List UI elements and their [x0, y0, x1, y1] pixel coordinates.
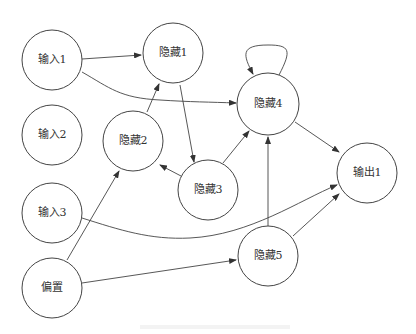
node-hidden3: 隐藏3 [178, 160, 238, 220]
node-label: 输入1 [38, 52, 67, 66]
figure-caption [140, 325, 290, 329]
node-label: 隐藏2 [119, 134, 148, 147]
node-hidden4: 隐藏4 [237, 73, 299, 135]
node-input3: 输入3 [22, 183, 82, 243]
node-label: 隐藏1 [159, 46, 188, 59]
node-label: 隐藏4 [254, 97, 283, 110]
network-diagram: 输入1 输入2 输入3 偏置 隐藏1 隐藏2 隐藏3 隐藏4 隐藏5 输出1 [0, 0, 416, 334]
node-hidden1: 隐藏1 [143, 23, 203, 83]
edge-bias-h5 [82, 260, 236, 283]
node-label: 输出1 [353, 165, 382, 179]
node-hidden5: 隐藏5 [238, 226, 298, 286]
edge-h1-h3 [180, 85, 194, 162]
edge-in1-h1 [82, 55, 141, 59]
edge-h3-h2 [160, 165, 181, 176]
node-input1: 输入1 [22, 30, 82, 90]
node-bias: 偏置 [22, 258, 82, 318]
node-label: 隐藏3 [194, 183, 223, 196]
node-input2: 输入2 [22, 105, 82, 165]
node-label: 隐藏5 [254, 249, 283, 262]
node-label: 输入2 [38, 127, 67, 141]
edge-h2-h1 [147, 84, 159, 112]
node-label: 偏置 [41, 280, 63, 294]
edge-h3-h4 [223, 131, 249, 163]
edge-h4-out1 [295, 122, 339, 152]
edge-h4-self [246, 45, 287, 75]
node-label: 输入3 [38, 205, 67, 219]
node-hidden2: 隐藏2 [103, 111, 163, 171]
edge-h5-out1 [293, 194, 339, 236]
node-output1: 输出1 [337, 143, 397, 203]
